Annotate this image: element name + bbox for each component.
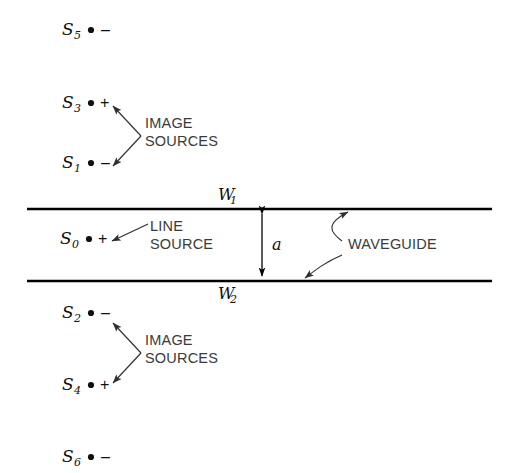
source-subscript-s2: 2 — [73, 312, 81, 325]
wall-label-w2: W 2 — [218, 284, 237, 306]
callout-image-sources-bottom-line2: SOURCES — [145, 350, 218, 366]
source-dot-s0 — [86, 236, 92, 242]
callout-waveguide-text: WAVEGUIDE — [348, 236, 437, 252]
source-label-s0: S — [60, 228, 72, 248]
source-sign-s2: – — [101, 304, 110, 321]
callout-image-sources-top-line1: IMAGE — [145, 115, 193, 131]
wall-label-w1: W 1 — [218, 185, 237, 207]
source-sign-s6: – — [101, 448, 110, 465]
source-label-s1: S — [62, 152, 74, 172]
source-dot-s3 — [88, 100, 94, 106]
wall-label-w2-subscript: 2 — [229, 293, 237, 306]
source-sign-s1: – — [101, 154, 110, 171]
waveguide-image-source-diagram: W 1 W 2 a S 5 – S 3 + S 1 – S 0 + S 2 — [0, 0, 509, 473]
callout-image-sources-top-line2: SOURCES — [145, 133, 218, 149]
source-label-s6: S — [62, 446, 74, 466]
source-label-s5: S — [62, 19, 74, 39]
wall-label-w1-subscript: 1 — [230, 194, 237, 207]
source-dot-s1 — [88, 160, 94, 166]
source-subscript-s5: 5 — [74, 29, 81, 42]
callout-image-sources-bottom-line1: IMAGE — [145, 332, 193, 348]
callout-line-source-line2: SOURCE — [150, 236, 213, 252]
source-sign-s5: – — [101, 21, 110, 38]
source-label-s2: S — [62, 302, 74, 322]
source-dot-s2 — [88, 310, 94, 316]
callout-line-source-line1: LINE — [150, 218, 183, 234]
source-sign-s0: + — [98, 230, 107, 247]
source-dot-s5 — [88, 27, 94, 33]
source-dot-s6 — [88, 454, 94, 460]
source-dot-s4 — [88, 382, 94, 388]
source-subscript-s4: 4 — [73, 384, 81, 397]
source-subscript-s3: 3 — [74, 102, 81, 115]
source-subscript-s6: 6 — [74, 456, 81, 469]
source-label-s3: S — [62, 92, 74, 112]
source-subscript-s1: 1 — [74, 162, 81, 175]
source-sign-s3: + — [100, 94, 109, 111]
source-sign-s4: + — [100, 376, 109, 393]
dimension-label-a: a — [272, 235, 282, 254]
source-subscript-s0: 0 — [72, 238, 79, 251]
source-label-s4: S — [62, 374, 74, 394]
